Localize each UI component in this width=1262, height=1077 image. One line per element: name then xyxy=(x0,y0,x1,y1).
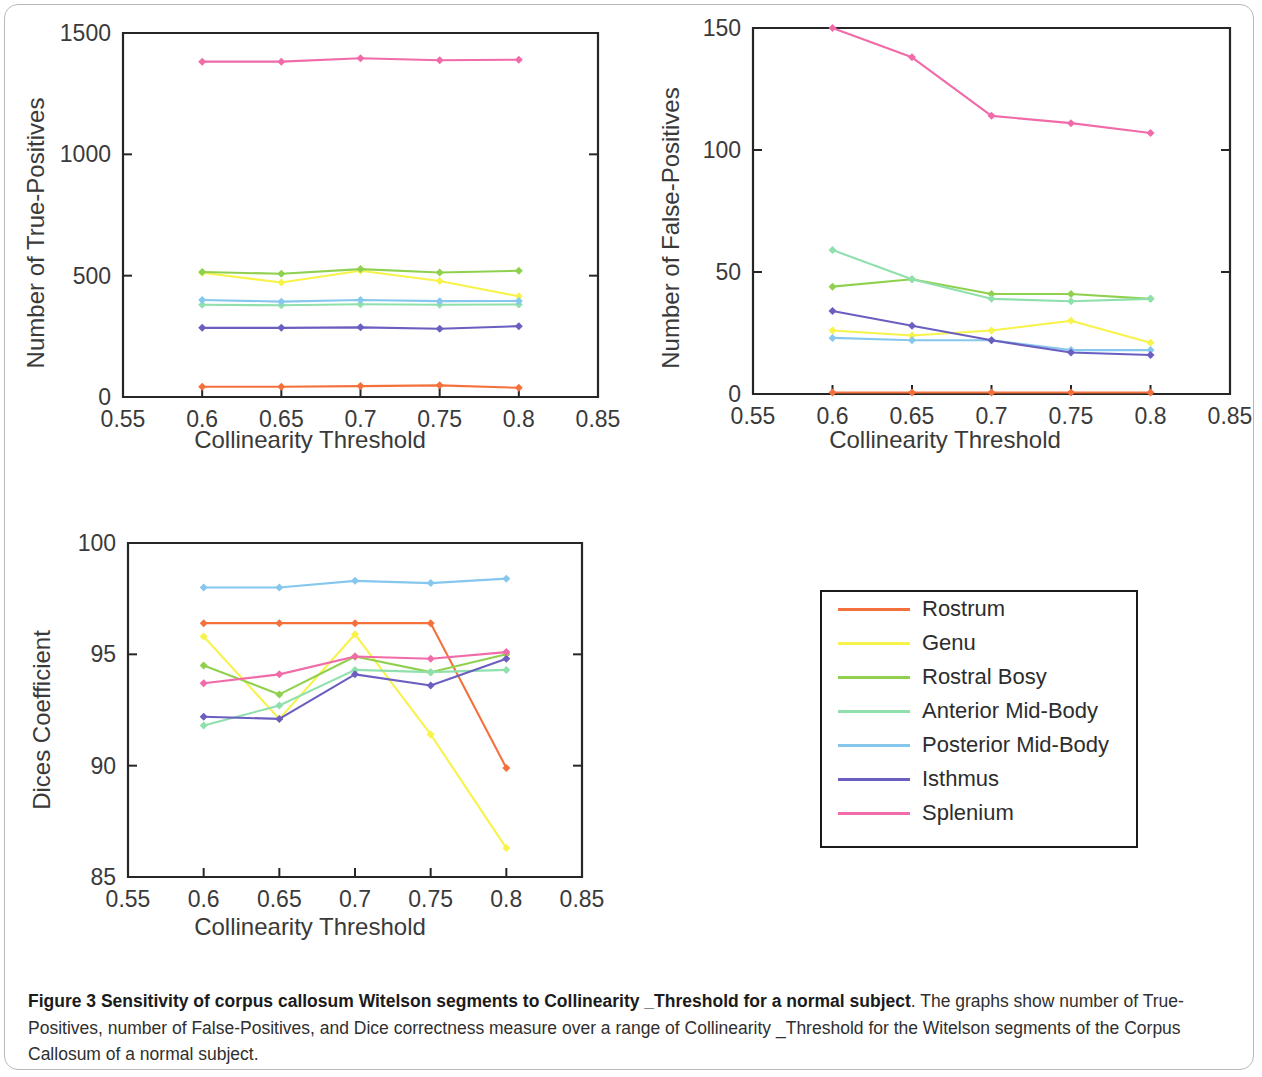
true-positives-marker xyxy=(515,56,523,64)
chart-true-positives: 0.550.60.650.70.750.80.85050010001500 Nu… xyxy=(10,8,640,478)
true-positives-y-tick-label: 1500 xyxy=(60,20,111,46)
legend-item-rostrum[interactable]: Rostrum xyxy=(822,592,1136,626)
true-positives-y-tick-label: 1000 xyxy=(60,141,111,167)
dices-coefficient-marker xyxy=(502,575,510,583)
dices-coefficient-y-tick-label: 90 xyxy=(90,753,116,779)
true-positives-marker xyxy=(515,322,523,330)
true-positives-marker xyxy=(357,296,365,304)
dices-coefficient-marker xyxy=(502,764,510,772)
legend-item-splenium[interactable]: Splenium xyxy=(822,796,1136,830)
false-positives-svg: 0.550.60.650.70.750.80.85050100150 Numbe… xyxy=(645,8,1255,478)
false-positives-marker xyxy=(829,283,837,291)
dices-coefficient-marker xyxy=(275,584,283,592)
dices-coefficient-marker xyxy=(200,679,208,687)
legend-item-posterior-mid-body[interactable]: Posterior Mid-Body xyxy=(822,728,1136,762)
dices-coefficient-x-tick-label: 0.6 xyxy=(188,886,220,912)
dices-coefficient-x-tick-label: 0.85 xyxy=(560,886,605,912)
dices-coefficient-x-tick-label: 0.75 xyxy=(408,886,453,912)
dices-coefficient-marker xyxy=(427,579,435,587)
figure-caption-title: Figure 3 Sensitivity of corpus callosum … xyxy=(28,991,911,1011)
false-positives-marker xyxy=(829,334,837,342)
legend-item-label: Anterior Mid-Body xyxy=(922,700,1098,722)
false-positives-x-tick-label: 0.8 xyxy=(1135,403,1167,429)
false-positives-marker xyxy=(1147,351,1155,359)
legend-swatch-icon xyxy=(838,676,910,679)
false-positives-y-tick-label: 50 xyxy=(715,259,741,285)
false-positives-marker xyxy=(988,336,996,344)
true-positives-marker xyxy=(277,278,285,286)
legend-item-anterior-mid-body[interactable]: Anterior Mid-Body xyxy=(822,694,1136,728)
legend-item-label: Splenium xyxy=(922,802,1014,824)
true-positives-y-tick-label: 0 xyxy=(98,384,111,410)
true-positives-marker xyxy=(515,384,523,392)
dices-coefficient-marker xyxy=(275,619,283,627)
dices-coefficient-y-tick-label: 85 xyxy=(90,864,116,890)
chart-false-positives: 0.550.60.650.70.750.80.85050100150 Numbe… xyxy=(645,8,1255,478)
dices-coefficient-marker xyxy=(351,577,359,585)
false-positives-marker xyxy=(1067,317,1075,325)
false-positives-marker xyxy=(908,336,916,344)
false-positives-x-tick-label: 0.85 xyxy=(1208,403,1253,429)
true-positives-marker xyxy=(436,277,444,285)
dices-coefficient-svg: 0.550.60.650.70.750.80.85859095100 Dices… xyxy=(10,505,640,960)
false-positives-marker xyxy=(1147,129,1155,137)
dices-coefficient-series-line-rostrum xyxy=(204,623,507,768)
legend-swatch-icon xyxy=(838,642,910,645)
false-positives-marker xyxy=(1147,339,1155,347)
false-positives-marker xyxy=(829,327,837,335)
false-positives-marker xyxy=(829,307,837,315)
dices-coefficient-marker xyxy=(427,668,435,676)
true-positives-marker xyxy=(277,324,285,332)
true-positives-marker xyxy=(357,54,365,62)
dices-coefficient-marker xyxy=(200,619,208,627)
legend-swatch-icon xyxy=(838,778,910,781)
false-positives-marker xyxy=(1147,295,1155,303)
false-positives-marker xyxy=(829,389,837,397)
dices-coefficient-marker xyxy=(351,653,359,661)
dice-y-axis-title: Dices Coefficient xyxy=(28,630,55,810)
true-positives-marker xyxy=(436,269,444,277)
legend-swatch-icon xyxy=(838,710,910,713)
true-positives-marker xyxy=(436,56,444,64)
false-positives-y-tick-label: 150 xyxy=(703,15,741,41)
dices-coefficient-y-tick-label: 100 xyxy=(78,530,116,556)
legend-item-isthmus[interactable]: Isthmus xyxy=(822,762,1136,796)
true-positives-marker xyxy=(198,58,206,66)
legend-item-rostral-bosy[interactable]: Rostral Bosy xyxy=(822,660,1136,694)
legend-item-genu[interactable]: Genu xyxy=(822,626,1136,660)
legend-swatch-icon xyxy=(838,744,910,747)
dice-series xyxy=(200,575,511,852)
fp-y-axis-title: Number of False-Positives xyxy=(657,87,684,368)
true-positives-svg: 0.550.60.650.70.750.80.85050010001500 Nu… xyxy=(10,8,640,478)
dices-coefficient-marker xyxy=(427,619,435,627)
dices-coefficient-x-tick-label: 0.8 xyxy=(490,886,522,912)
dices-coefficient-plot-frame xyxy=(128,543,582,877)
fp-x-axis-title: Collinearity Threshold xyxy=(829,426,1061,453)
true-positives-marker xyxy=(436,381,444,389)
false-positives-y-tick-label: 100 xyxy=(703,137,741,163)
false-positives-marker xyxy=(1067,297,1075,305)
true-positives-y-tick-label: 500 xyxy=(73,263,111,289)
false-positives-marker xyxy=(908,389,916,397)
false-positives-marker xyxy=(908,275,916,283)
false-positives-marker xyxy=(1067,119,1075,127)
true-positives-marker xyxy=(198,324,206,332)
false-positives-marker xyxy=(1067,389,1075,397)
figure-caption: Figure 3 Sensitivity of corpus callosum … xyxy=(28,988,1233,1068)
fp-series xyxy=(829,24,1155,397)
true-positives-marker xyxy=(357,323,365,331)
legend-item-label: Rostrum xyxy=(922,598,1005,620)
false-positives-marker xyxy=(829,246,837,254)
true-positives-marker xyxy=(515,267,523,275)
true-positives-marker xyxy=(198,296,206,304)
legend-swatch-icon xyxy=(838,812,910,815)
true-positives-marker xyxy=(277,270,285,278)
tp-x-axis-title: Collinearity Threshold xyxy=(194,426,426,453)
true-positives-marker xyxy=(436,325,444,333)
true-positives-marker xyxy=(277,383,285,391)
dices-coefficient-marker xyxy=(427,682,435,690)
true-positives-marker xyxy=(198,383,206,391)
dices-coefficient-x-tick-label: 0.65 xyxy=(257,886,302,912)
dices-coefficient-marker xyxy=(275,690,283,698)
legend-item-label: Rostral Bosy xyxy=(922,666,1047,688)
